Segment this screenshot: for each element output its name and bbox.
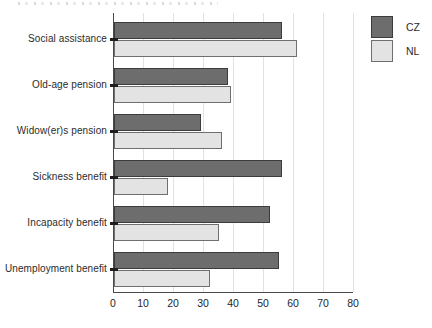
bar-nl-1: [114, 86, 231, 103]
x-tick-label-70: 70: [310, 297, 336, 310]
legend-label-nl: NL: [406, 45, 419, 57]
bar-nl-5: [114, 270, 210, 287]
x-tick-label-80: 80: [340, 297, 366, 310]
x-tick-label-0: 0: [100, 297, 126, 310]
category-label: Widow(er)s pension: [0, 124, 107, 138]
category-label: Incapacity benefit: [0, 216, 107, 230]
category-label: Social assistance: [0, 32, 107, 46]
legend-swatch-nl: [371, 40, 393, 62]
category-tick: [110, 130, 118, 133]
bar-cz-3: [114, 160, 282, 177]
category-tick: [110, 176, 118, 179]
bar-cz-1: [114, 68, 228, 85]
legend: CZ NL: [371, 16, 420, 62]
category-tick: [110, 38, 118, 41]
category-tick: [110, 84, 118, 87]
cropped-text-remnant: [18, 2, 218, 5]
category-tick: [110, 268, 118, 271]
plot-area: [113, 13, 353, 293]
legend-swatch-cz: [371, 16, 393, 38]
legend-label-cz: CZ: [406, 21, 420, 33]
x-tick-label-30: 30: [190, 297, 216, 310]
category-label: Sickness benefit: [0, 170, 107, 184]
category-tick: [110, 222, 118, 225]
bar-cz-5: [114, 252, 279, 269]
category-label: Unemployment benefit: [0, 262, 107, 276]
x-tick-label-50: 50: [250, 297, 276, 310]
x-tick-label-10: 10: [130, 297, 156, 310]
gridline-80: [353, 13, 354, 292]
bar-nl-4: [114, 224, 219, 241]
bar-nl-0: [114, 40, 297, 57]
bar-nl-3: [114, 178, 168, 195]
bar-cz-4: [114, 206, 270, 223]
legend-item-cz: CZ: [371, 16, 420, 38]
bar-nl-2: [114, 132, 222, 149]
x-tick-label-20: 20: [160, 297, 186, 310]
gridline-70: [323, 13, 324, 292]
x-tick-label-60: 60: [280, 297, 306, 310]
legend-item-nl: NL: [371, 40, 420, 62]
category-label: Old-age pension: [0, 78, 107, 92]
x-tick-label-40: 40: [220, 297, 246, 310]
figure: Social assistanceOld-age pensionWidow(er…: [0, 0, 432, 328]
bar-cz-2: [114, 114, 201, 131]
bar-cz-0: [114, 22, 282, 39]
